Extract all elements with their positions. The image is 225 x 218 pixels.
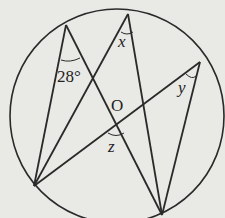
angle-label-z: z [108,137,115,157]
center-label-o: O [111,96,123,116]
angle-arc-y [186,74,196,78]
angle-label-x: x [118,32,126,52]
chord-a-d [34,25,66,186]
angle-label-28: 28° [57,67,81,87]
chord-b-e [128,14,162,215]
circle-geometry-diagram: 28° x y z O [0,0,225,218]
angle-label-y: y [178,78,186,98]
chord-a-e [66,25,162,215]
angle-arc-28 [61,58,80,61]
